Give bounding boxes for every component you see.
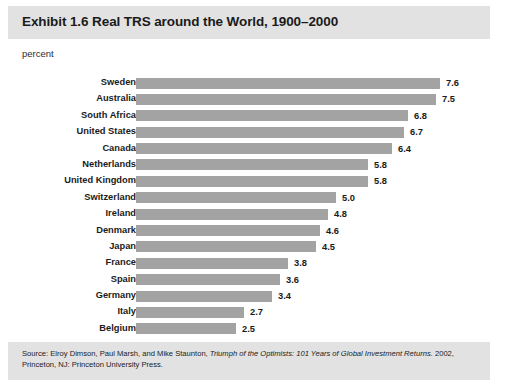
- bar: [136, 192, 336, 203]
- bar-value-label: 6.7: [410, 127, 423, 137]
- bar-value-label: 4.5: [322, 242, 335, 252]
- bar-track: 6.7: [136, 127, 476, 138]
- bar-track: 4.5: [136, 241, 476, 252]
- bar-row: Germany3.4: [8, 289, 490, 305]
- bar-category-label: Canada: [102, 143, 136, 153]
- bar-value-label: 7.6: [446, 78, 459, 88]
- bar-row: Spain3.6: [8, 273, 490, 289]
- bar-category-label: Spain: [111, 274, 136, 284]
- bar: [136, 241, 316, 252]
- bar: [136, 78, 440, 89]
- bar-row: Ireland4.8: [8, 207, 490, 223]
- bar-row: United States6.7: [8, 125, 490, 141]
- bar-track: 4.6: [136, 225, 476, 236]
- bar-value-label: 2.5: [242, 324, 255, 334]
- bar-category-label: Ireland: [106, 208, 136, 218]
- bar-track: 2.5: [136, 323, 476, 334]
- exhibit-figure: Exhibit 1.6 Real TRS around the World, 1…: [8, 6, 490, 380]
- bar-value-label: 5.8: [374, 176, 387, 186]
- bar-track: 7.5: [136, 94, 476, 105]
- bar-category-label: Italy: [117, 306, 136, 316]
- bar: [136, 127, 404, 138]
- bar-value-label: 4.8: [334, 209, 347, 219]
- bar-track: 5.0: [136, 192, 476, 203]
- bar-track: 3.6: [136, 274, 476, 285]
- bar-category-label: South Africa: [81, 110, 136, 120]
- bar-category-label: Netherlands: [82, 159, 136, 169]
- bar-row: Belgium2.5: [8, 322, 490, 338]
- bar-category-label: United States: [77, 126, 136, 136]
- bar-track: 3.4: [136, 291, 476, 302]
- bar-category-label: Germany: [96, 290, 136, 300]
- chart-plot-area: percent Sweden7.6Australia7.5South Afric…: [8, 39, 490, 342]
- bar-value-label: 3.6: [286, 275, 299, 285]
- bar-track: 2.7: [136, 307, 476, 318]
- bar-row: Denmark4.6: [8, 224, 490, 240]
- source-prefix: Source: Elroy Dimson, Paul Marsh, and Mi…: [22, 349, 210, 358]
- bar-category-label: France: [106, 257, 137, 267]
- source-title-italic: Triumph of the Optimists: 101 Years of G…: [210, 349, 433, 358]
- bar-row: Switzerland5.0: [8, 191, 490, 207]
- bar-row: France3.8: [8, 256, 490, 272]
- bar: [136, 258, 288, 269]
- bar-track: 4.8: [136, 209, 476, 220]
- bar: [136, 323, 236, 334]
- bar-value-label: 2.7: [250, 307, 263, 317]
- bar: [136, 110, 408, 121]
- bar: [136, 307, 244, 318]
- bar-track: 6.4: [136, 143, 476, 154]
- bar: [136, 94, 436, 105]
- bar: [136, 209, 328, 220]
- bar-track: 3.8: [136, 258, 476, 269]
- bar-row: Netherlands5.8: [8, 158, 490, 174]
- bar-value-label: 4.6: [326, 226, 339, 236]
- bar-category-label: Australia: [96, 93, 136, 103]
- title-band: Exhibit 1.6 Real TRS around the World, 1…: [8, 6, 490, 39]
- bar: [136, 143, 392, 154]
- bar-row: Canada6.4: [8, 142, 490, 158]
- bar: [136, 159, 368, 170]
- bar-value-label: 3.4: [278, 291, 291, 301]
- bar-track: 7.6: [136, 78, 476, 89]
- source-note: Source: Elroy Dimson, Paul Marsh, and Mi…: [22, 349, 480, 370]
- bar-value-label: 6.8: [414, 111, 427, 121]
- exhibit-title: Exhibit 1.6 Real TRS around the World, 1…: [22, 14, 338, 29]
- bar-category-label: Belgium: [99, 323, 136, 333]
- bar-track: 6.8: [136, 110, 476, 121]
- bar: [136, 176, 368, 187]
- bar-row: South Africa6.8: [8, 109, 490, 125]
- bar-value-label: 5.8: [374, 160, 387, 170]
- source-band: Source: Elroy Dimson, Paul Marsh, and Mi…: [8, 342, 490, 380]
- bar-category-label: United Kingdom: [64, 175, 136, 185]
- bar-value-label: 3.8: [294, 258, 307, 268]
- bar-category-label: Denmark: [96, 225, 136, 235]
- bar-value-label: 7.5: [442, 94, 455, 104]
- bar-row: Australia7.5: [8, 92, 490, 108]
- bar-row: Japan4.5: [8, 240, 490, 256]
- bar-row: United Kingdom5.8: [8, 174, 490, 190]
- bar-category-label: Switzerland: [84, 192, 136, 202]
- bar-track: 5.8: [136, 159, 476, 170]
- bar-row: Sweden7.6: [8, 76, 490, 92]
- bar-track: 5.8: [136, 176, 476, 187]
- bar: [136, 291, 272, 302]
- bar-value-label: 5.0: [342, 193, 355, 203]
- bar: [136, 274, 280, 285]
- bar-row: Italy2.7: [8, 305, 490, 321]
- bar-rows: Sweden7.6Australia7.5South Africa6.8Unit…: [8, 76, 490, 338]
- bar: [136, 225, 320, 236]
- bar-category-label: Sweden: [101, 77, 136, 87]
- bar-category-label: Japan: [109, 241, 136, 251]
- bar-value-label: 6.4: [398, 144, 411, 154]
- axis-unit-label: percent: [22, 48, 54, 59]
